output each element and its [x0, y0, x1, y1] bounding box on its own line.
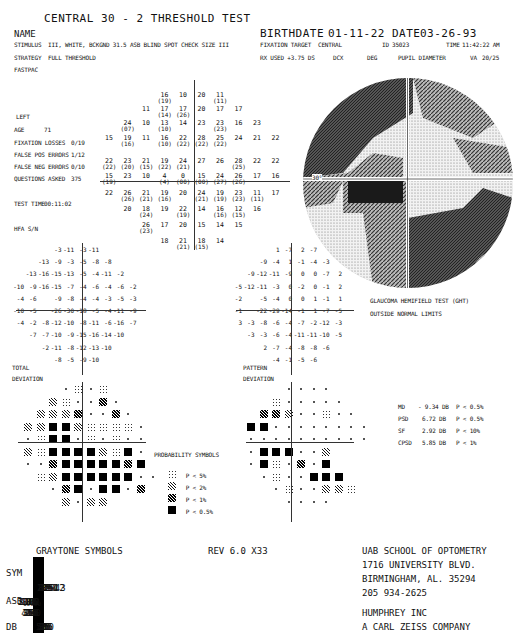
name-label: NAME — [14, 29, 36, 39]
normal-point-icon — [52, 488, 54, 490]
threshold-value: 27 — [195, 158, 209, 164]
va-label: VA — [470, 54, 477, 61]
db-cell: ≤0 — [43, 608, 44, 633]
pattern-deviation-value: 1 — [328, 295, 342, 302]
total-prob-h-axis — [18, 442, 146, 443]
age-value: 71 — [44, 126, 51, 133]
threshold-value: 20 — [121, 206, 135, 212]
normal-point-icon — [40, 463, 42, 465]
p2-hatch-icon — [335, 485, 343, 493]
pattern-deviation-h-axis — [236, 310, 354, 311]
p05-solid-icon — [74, 473, 82, 481]
p2-hatch-icon — [37, 423, 45, 431]
pattern-prob-h-axis — [246, 442, 354, 443]
institution-phone: 205 934-2625 — [362, 588, 427, 598]
normal-point-icon — [140, 451, 142, 453]
p1-dense-hatch-icon — [137, 485, 145, 493]
p05-solid-icon — [124, 448, 132, 456]
p2-hatch-icon — [322, 485, 330, 493]
threshold-value: 16(16) — [213, 206, 227, 218]
normal-point-icon — [263, 438, 265, 440]
graytone-title: GRAYTONE SYMBOLS — [36, 546, 123, 556]
asb-cell: ≥10000 — [43, 583, 44, 608]
normal-point-icon — [288, 388, 290, 390]
false-neg-value: 0/10 — [71, 163, 85, 170]
pattern-deviation-value: -6 — [303, 356, 317, 363]
p2-hatch-icon — [24, 423, 32, 431]
threshold-value: 24(27) — [213, 173, 227, 185]
p2-hatch-icon — [49, 410, 57, 418]
p05-solid-icon — [62, 460, 70, 468]
total-deviation-value: -3 — [123, 295, 137, 302]
threshold-value: 23 — [250, 120, 264, 126]
p05-solid-icon — [247, 423, 255, 431]
normal-point-icon — [313, 438, 315, 440]
p05-solid-icon — [49, 448, 57, 456]
p1-dense-hatch-icon — [49, 460, 57, 468]
time-value: 11:42:22 AM — [462, 41, 500, 48]
p5-dots-icon — [347, 485, 355, 493]
threshold-value: 17 — [269, 190, 283, 196]
threshold-value: 28(25) — [232, 158, 246, 170]
threshold-value: 16 — [269, 173, 283, 179]
p5-dots-icon — [62, 398, 70, 406]
threshold-value: 16(19) — [158, 92, 172, 104]
normal-point-icon — [338, 426, 340, 428]
false-pos-label: FALSE POS ERRORS — [14, 151, 69, 158]
p1-dense-hatch-icon — [260, 410, 268, 418]
db-row-label: DB — [6, 622, 17, 632]
p2-hatch-icon — [74, 423, 82, 431]
test-time-value: 00:11:02 — [44, 200, 71, 207]
normal-point-icon — [288, 426, 290, 428]
deg-label: DEG — [367, 54, 377, 61]
p5-dots-icon — [74, 385, 82, 393]
manufacturer: HUMPHREY INC — [362, 608, 427, 618]
normal-point-icon — [27, 463, 29, 465]
p5-dots-icon — [112, 423, 120, 431]
fixation-target-value: CENTRAL — [318, 41, 342, 48]
threshold-value: 22 — [250, 158, 264, 164]
threshold-value: 17 — [232, 106, 246, 112]
threshold-value: 10 — [176, 92, 190, 98]
threshold-value: 17(26) — [176, 106, 190, 118]
pattern-deviation-value: -3 — [328, 319, 342, 326]
rx-label: RX USED +3.75 DS — [260, 54, 315, 61]
threshold-value: 22 — [269, 135, 283, 141]
threshold-value: 11(11) — [213, 92, 227, 104]
normal-point-icon — [300, 388, 302, 390]
threshold-value: 11(11) — [250, 190, 264, 202]
p5-dots-icon — [37, 473, 45, 481]
pattern-deviation-value: -7 — [303, 246, 317, 253]
pattern-deviation-value: 2 — [328, 283, 342, 290]
total-deviation-value: -10 — [110, 331, 124, 338]
normal-point-icon — [313, 413, 315, 415]
questions-value: 375 — [71, 175, 81, 182]
p05-solid-icon — [112, 473, 120, 481]
p1-dense-hatch-icon — [62, 485, 70, 493]
threshold-value: 17 — [158, 222, 172, 228]
threshold-value: 21(15) — [139, 158, 153, 170]
id-label: ID — [382, 41, 389, 48]
threshold-value: 26(26) — [121, 190, 135, 202]
p05-solid-icon — [137, 460, 145, 468]
id-value: 35023 — [392, 41, 409, 48]
threshold-value: 16 — [232, 120, 246, 126]
normal-point-icon — [275, 438, 277, 440]
threshold-value: 19(16) — [121, 135, 135, 147]
normal-point-icon — [250, 463, 252, 465]
normal-point-icon — [313, 426, 315, 428]
institution-address: 1716 UNIVERSITY BLVD. — [362, 560, 476, 570]
p2-hatch-icon — [49, 398, 57, 406]
threshold-value: 15(19) — [102, 173, 116, 185]
total-deviation-value: -8 — [98, 258, 112, 265]
normal-point-icon — [90, 388, 92, 390]
normal-point-icon — [127, 413, 129, 415]
threshold-value: 24 — [232, 135, 246, 141]
strategy-label: STRATEGY — [14, 54, 41, 61]
normal-point-icon — [300, 438, 302, 440]
threshold-value: 16 — [250, 206, 264, 212]
ght-result: OUTSIDE NORMAL LIMITS — [370, 310, 442, 317]
p05-solid-icon — [87, 448, 95, 456]
p05-solid-icon — [322, 473, 330, 481]
normal-point-icon — [90, 488, 92, 490]
